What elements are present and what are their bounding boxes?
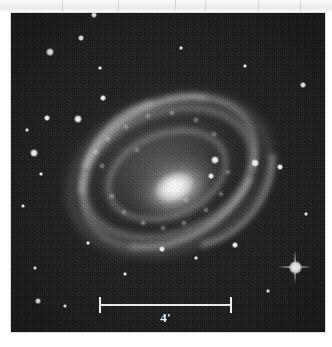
galaxy-bulge [119, 138, 234, 239]
emulsion-grain-overlay [11, 13, 325, 332]
galaxy-hii-knot [135, 148, 138, 151]
galaxy-outer-arm-ring [42, 63, 299, 288]
scan-seam [62, 0, 63, 11]
diffraction-spike-horizontal [278, 266, 312, 268]
field-star [266, 289, 270, 293]
scale-bar-rule [99, 304, 232, 306]
figure-page: 4' [0, 0, 332, 347]
diffraction-spike-vertical [294, 250, 296, 284]
galaxy-spiral-arm-upper [49, 62, 287, 280]
scan-seam [258, 0, 259, 11]
galaxy-spiral-arm-lower [51, 66, 286, 282]
galaxy-hii-knot [141, 221, 146, 226]
bright-star-core [289, 261, 302, 274]
field-star [98, 66, 103, 71]
field-star [123, 272, 127, 276]
galaxy-hii-knot [124, 125, 128, 129]
galaxy-hii-knot [204, 208, 209, 213]
galaxy-hii-knot [182, 221, 186, 225]
field-star [46, 48, 53, 55]
field-star [194, 256, 198, 260]
angular-scale-bar: 4' [99, 297, 232, 327]
galaxy-hii-knot [122, 210, 126, 214]
scan-seam [118, 0, 119, 11]
galaxy-outer-halo [29, 50, 290, 278]
field-star [304, 212, 308, 216]
field-star [232, 242, 238, 248]
field-star [179, 46, 183, 50]
field-star [74, 115, 82, 123]
galaxy-nucleus [148, 164, 200, 209]
field-star [277, 164, 284, 171]
field-star [86, 241, 90, 245]
galaxy-plate-image: 4' [11, 13, 325, 332]
galaxy-hii-knot [146, 114, 150, 118]
scan-seam [205, 0, 206, 11]
field-star [33, 266, 38, 271]
field-star [91, 13, 98, 18]
galaxy-hii-knot [161, 226, 165, 230]
field-star [35, 298, 41, 304]
galaxy-inner-arm-ring [91, 110, 243, 240]
galaxy-hii-knot [100, 164, 104, 168]
field-star [21, 204, 25, 208]
field-star [159, 246, 164, 251]
galaxy-main-arm-ring [60, 80, 277, 267]
galaxy-hii-knot [106, 137, 110, 141]
galaxy-hii-knot [226, 170, 230, 174]
field-star [251, 159, 259, 167]
field-star [44, 115, 50, 121]
field-star [39, 172, 43, 176]
galaxy-hii-knot [110, 194, 114, 198]
galaxy-hii-knot [219, 192, 223, 196]
galaxy-hii-knot [194, 118, 199, 123]
scale-bar-label: 4' [99, 311, 232, 325]
field-star [30, 149, 37, 156]
galaxy-hii-knot [94, 150, 98, 154]
galaxy-spiral-arm-right [103, 70, 305, 278]
field-star [211, 156, 219, 164]
scan-seam [300, 0, 301, 11]
galaxy-hii-knot [212, 132, 216, 136]
field-star [243, 64, 247, 68]
scan-margin-band [0, 0, 332, 11]
field-star [63, 304, 67, 308]
field-star [300, 82, 305, 87]
galaxy-hii-knot [170, 111, 174, 115]
field-star [208, 173, 213, 178]
field-star [25, 128, 30, 133]
plate-vignette [11, 13, 325, 332]
galaxy-hii-knot [184, 198, 187, 201]
scan-seam [175, 0, 176, 11]
galaxy-spiral-arm-left [49, 70, 251, 278]
field-star [100, 95, 105, 100]
field-star [78, 35, 84, 41]
